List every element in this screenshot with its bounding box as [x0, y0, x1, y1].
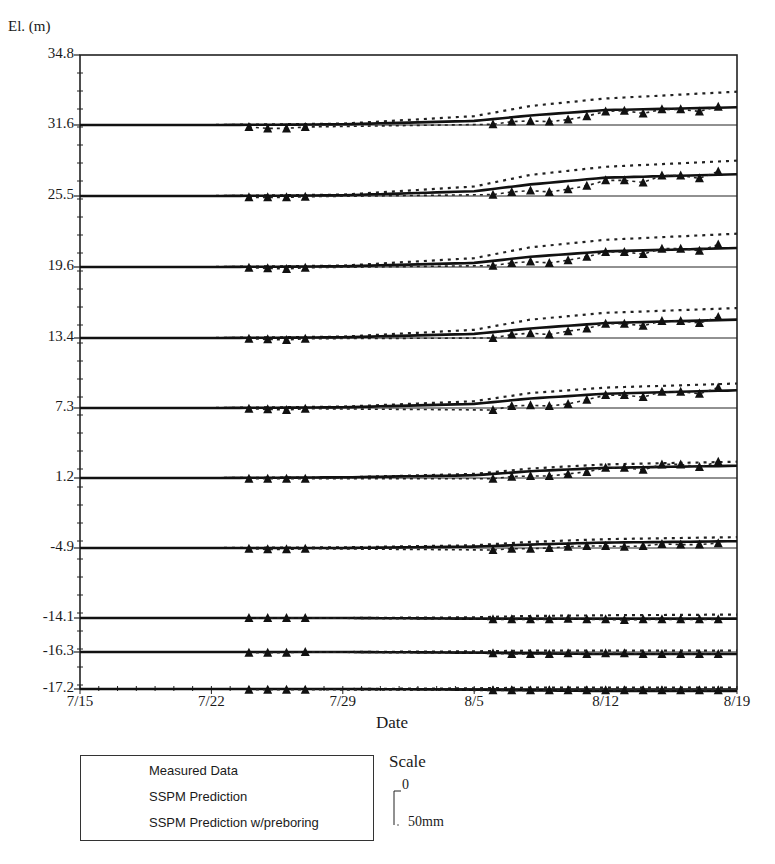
series-layer: [80, 92, 737, 695]
y-axis-title: El. (m): [8, 18, 51, 35]
scale-bottom-label: 50mm: [408, 814, 444, 830]
y-tick-label: -4.9: [14, 538, 74, 555]
x-tick-label: 7/29: [313, 693, 373, 710]
legend-label: SSPM Prediction: [149, 789, 247, 804]
y-tick-label: 34.8: [14, 45, 74, 62]
y-tick-label: 7.3: [14, 398, 74, 415]
y-axis-ticks: [74, 55, 83, 689]
series-el--14.1: [80, 613, 737, 624]
series-el-13.4: [80, 308, 737, 344]
x-tick-label: 7/22: [181, 693, 241, 710]
legend-label: SSPM Prediction w/preboring: [149, 815, 319, 830]
series-el--16.3: [80, 647, 737, 658]
legend-label: Measured Data: [149, 763, 238, 778]
legend-item-measured: Measured Data: [81, 762, 373, 782]
legend-item-sspm: SSPM Prediction: [81, 788, 373, 808]
chart-plot: [0, 0, 775, 864]
x-tick-label: 8/19: [707, 693, 767, 710]
y-tick-label: -14.1: [14, 608, 74, 625]
y-tick-label: 13.4: [14, 328, 74, 345]
legend: Measured Data SSPM Prediction SSPM Predi…: [80, 755, 374, 841]
y-tick-label: -16.3: [14, 642, 74, 659]
x-tick-label: 8/12: [576, 693, 636, 710]
x-axis-title: Date: [376, 713, 408, 733]
x-tick-label: 7/15: [50, 693, 110, 710]
scale-title: Scale: [389, 752, 426, 772]
scale-bar: [394, 791, 401, 826]
series-el--4.9: [80, 537, 737, 554]
series-el-25.5: [80, 161, 737, 202]
series-el-19.6: [80, 234, 737, 273]
series-el-1.2: [80, 457, 737, 483]
y-tick-label: 19.6: [14, 257, 74, 274]
scale-top-label: 0: [402, 777, 409, 793]
legend-item-sspm-preboring: SSPM Prediction w/preboring: [81, 814, 373, 834]
series-el-7.3: [80, 383, 737, 414]
x-tick-label: 8/5: [444, 693, 504, 710]
y-tick-label: 1.2: [14, 468, 74, 485]
y-tick-label: 25.5: [14, 186, 74, 203]
plot-frame: [80, 55, 737, 689]
series-el-31.6: [80, 92, 737, 133]
y-tick-label: 31.6: [14, 115, 74, 132]
